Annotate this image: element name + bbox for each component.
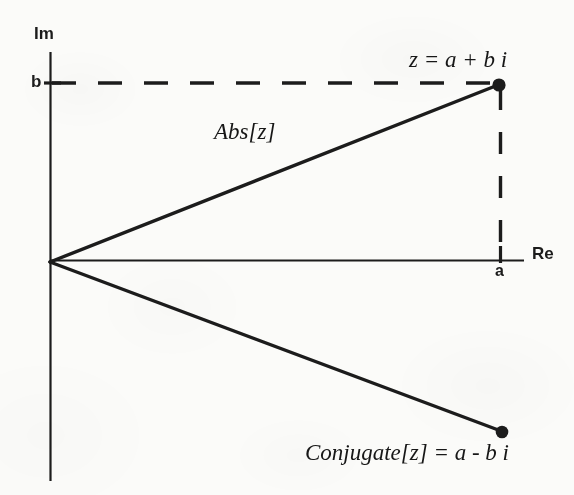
abs-z-annotation: Abs[z] — [214, 119, 275, 145]
point-marker-z — [492, 78, 505, 91]
real-axis-label: Re — [532, 244, 554, 264]
imaginary-axis-label: Im — [34, 24, 54, 44]
complex-plane-plot — [0, 0, 574, 495]
point-z-annotation: z = a + b i — [409, 47, 507, 73]
conjugate-z-vector-line — [50, 262, 501, 431]
complex-plane-figure: Im b Re a Abs[z] z = a + b i Conjugate[z… — [0, 0, 574, 495]
point-conjugate-z-annotation: Conjugate[z] = a - b i — [305, 440, 509, 466]
abs-z-vector-line — [50, 85, 498, 262]
imaginary-axis-tick-label-b: b — [31, 72, 41, 92]
real-axis-tick-label-a: a — [495, 262, 504, 280]
point-marker-conjugate-z — [496, 426, 509, 439]
